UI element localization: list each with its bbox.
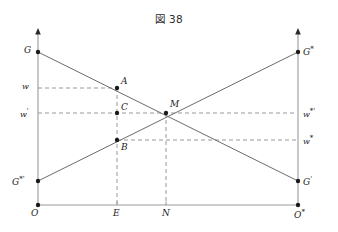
label-O-star-superscript: * bbox=[301, 208, 305, 216]
label-w-star-prime: w*' bbox=[303, 108, 315, 119]
point-A bbox=[115, 86, 119, 90]
label-G: G bbox=[24, 46, 31, 55]
point-G bbox=[36, 50, 40, 54]
label-w-prime-superscript: ' bbox=[27, 107, 29, 115]
label-w-star-prime-superscript: *' bbox=[310, 107, 315, 115]
label-G-star-prime-superscript: *' bbox=[19, 175, 24, 183]
point-O bbox=[36, 203, 40, 207]
demand-curves bbox=[38, 52, 298, 181]
point-B bbox=[115, 138, 119, 142]
label-E: E bbox=[113, 209, 120, 218]
label-A: A bbox=[121, 77, 128, 86]
left-axis-arrow-icon bbox=[35, 28, 41, 35]
point-C bbox=[115, 111, 119, 115]
point-M bbox=[164, 111, 168, 115]
label-O-star: O* bbox=[294, 209, 305, 220]
label-G-star: G* bbox=[303, 46, 314, 57]
marked-points bbox=[36, 50, 300, 207]
right-axis-arrow-icon bbox=[295, 28, 301, 35]
label-B: B bbox=[121, 143, 128, 152]
point-G-star-prime bbox=[36, 179, 40, 183]
label-G-star-superscript: * bbox=[310, 45, 314, 53]
point-O-star bbox=[296, 203, 300, 207]
label-C: C bbox=[121, 103, 128, 112]
figure-drawing-canvas bbox=[0, 0, 338, 232]
label-M: M bbox=[170, 100, 179, 109]
label-w-prime: w' bbox=[20, 108, 29, 119]
figure-38-container: 図 38 bbox=[0, 0, 338, 232]
label-w-star-base: w bbox=[303, 137, 310, 146]
label-G-star-prime: G*' bbox=[12, 176, 25, 187]
label-O: O bbox=[31, 209, 38, 218]
label-G-prime: G' bbox=[303, 176, 312, 187]
label-w-star-prime-base: w bbox=[303, 110, 310, 119]
label-w: w bbox=[22, 83, 29, 91]
label-w-star-superscript: * bbox=[310, 134, 314, 142]
point-G-prime bbox=[296, 179, 300, 183]
label-G-prime-superscript: ' bbox=[310, 175, 312, 183]
label-N: N bbox=[162, 209, 170, 218]
label-w-star: w* bbox=[303, 135, 313, 146]
label-w-prime-base: w bbox=[20, 110, 27, 119]
point-G-star bbox=[296, 50, 300, 54]
